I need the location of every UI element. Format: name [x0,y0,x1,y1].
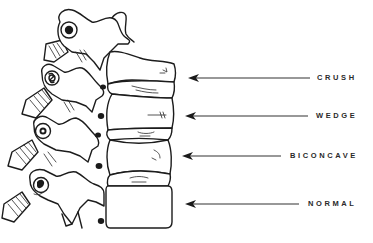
vertebra-4-posterior [2,169,104,228]
vertebra-2-posterior [22,64,104,118]
arrow-normal [185,200,299,208]
vertebra-3-posterior [8,116,99,170]
label-crush: CRUSH [317,73,357,82]
label-normal: NORMAL [308,199,357,208]
label-biconcave: BICONCAVE [290,151,358,160]
vertebral-body-wedge [107,94,174,130]
arrow-biconcave [182,152,281,160]
disc-2 [107,128,172,140]
vertebral-body-crush [107,51,176,84]
vertebral-body-normal [106,186,172,228]
label-wedge: WEDGE [316,111,357,120]
arrow-crush [188,74,310,82]
arrow-wedge [185,112,308,120]
disc-3 [107,171,170,186]
vertebral-body-biconcave [107,140,171,175]
